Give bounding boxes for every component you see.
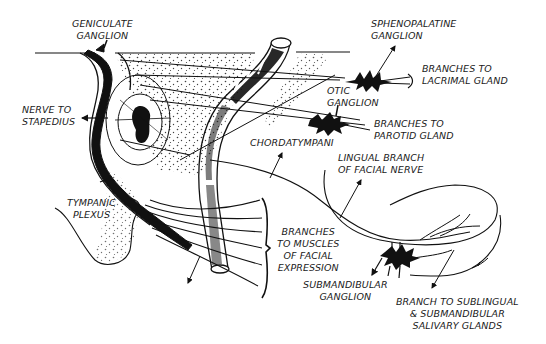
label-chordatympani: CHORDATYMPANI: [250, 137, 334, 149]
label-sphenopalatine-ganglion: SPHENOPALATINE GANGLION: [371, 18, 456, 42]
lingual-pointer: [340, 180, 361, 218]
facial-nerve-drawing: [0, 0, 546, 344]
label-facial-expression-branches: BRANCHES TO MUSCLES OF FACIAL EXPRESSION: [277, 226, 339, 274]
skull-base-line: [35, 52, 350, 53]
lingual-nerve-loop: [324, 170, 497, 245]
label-branches-parotid: BRANCHES TO PAROTID GLAND: [374, 118, 454, 142]
label-geniculate-ganglion: GENICULATE GANGLION: [72, 18, 133, 42]
parotid-branch-line: [345, 125, 370, 130]
label-nerve-to-stapedius: NERVE TO STAPEDIUS: [22, 104, 75, 128]
label-lingual-branch: LINGUAL BRANCH OF FACIAL NERVE: [338, 152, 424, 176]
label-submandibular-ganglion: SUBMANDIBULAR GANGLION: [303, 279, 388, 303]
sublingual-pointer: [432, 250, 454, 288]
facial-expression-branches: [145, 200, 262, 286]
otic-ganglion-shape: [308, 112, 350, 136]
label-otic-ganglion: OTIC GANGLION: [327, 85, 379, 109]
facial-expression-brace: [262, 198, 270, 298]
label-branch-sublingual: BRANCH TO SUBLINGUAL & SUBMANDIBULAR SAL…: [396, 296, 519, 332]
label-branches-lacrimal: BRANCHES TO LACRIMAL GLAND: [422, 63, 508, 87]
chordatympani-pointer: [270, 153, 282, 178]
submandibular-ganglion-shape: [380, 242, 420, 270]
sphenopalatine-pointer: [376, 46, 395, 76]
label-tympanic-plexus: TYMPANIC PLEXUS: [67, 197, 116, 221]
